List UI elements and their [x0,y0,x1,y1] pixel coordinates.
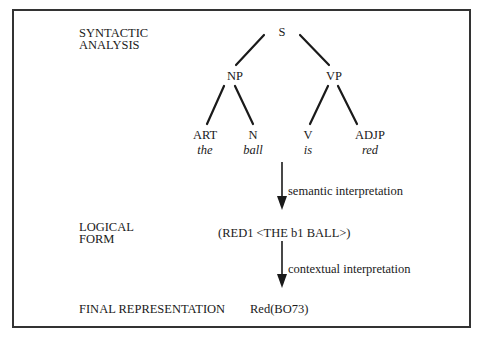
semantic-interpretation-label: semantic interpretation [288,185,403,198]
word-the: the [197,144,212,157]
edge-vp-v [310,86,328,124]
word-is: is [304,144,312,157]
logical-form-expression: (RED1 <THE b1 BALL>) [218,227,350,240]
final-representation-label: FINAL REPRESENTATION [79,303,225,316]
node-s: S [279,26,286,39]
node-vp: VP [326,70,342,83]
word-ball: ball [243,144,262,157]
edge-s-vp [300,35,329,65]
arrowhead-contextual-icon [277,274,287,288]
node-adjp: ADJP [355,129,385,142]
edge-vp-adjp [338,86,357,124]
tree-edges [0,0,483,344]
arrowhead-semantic-icon [277,196,287,210]
contextual-interpretation-label: contextual interpretation [288,263,411,276]
node-np: NP [227,70,243,83]
node-n: N [248,129,257,142]
node-art: ART [193,129,217,142]
edge-np-n [235,86,253,124]
syntactic-label-line2: ANALYSIS [79,39,140,52]
node-v: V [303,129,312,142]
logical-label-line2: FORM [79,233,114,246]
word-red: red [362,144,378,157]
final-representation-expression: Red(BO73) [250,303,308,316]
edge-np-art [207,86,224,124]
edge-s-np [236,35,264,65]
